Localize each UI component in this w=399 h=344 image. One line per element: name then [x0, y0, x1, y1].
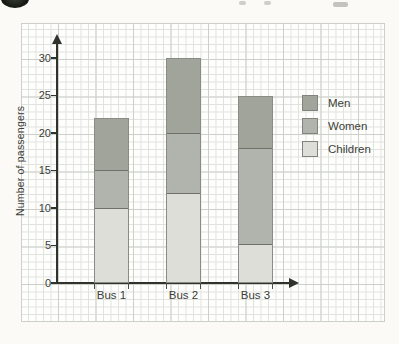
- legend-swatch-women: [302, 118, 318, 134]
- plot-area: Number of passengers 051015202530 Bus 1B…: [0, 0, 399, 344]
- y-tick-label: 10: [20, 203, 51, 214]
- y-tick-mark: [51, 95, 58, 97]
- y-tick-label: 0: [20, 278, 51, 289]
- bar-segment-women: [239, 148, 272, 244]
- y-tick-label: 5: [20, 240, 51, 251]
- legend-row-children: Children: [302, 141, 371, 157]
- stacked-bar-bus-2: [166, 58, 201, 283]
- y-tick-mark: [51, 207, 58, 209]
- legend-row-men: Men: [302, 95, 371, 111]
- y-axis-arrow-icon: [52, 34, 62, 44]
- legend: MenWomenChildren: [302, 95, 371, 164]
- bar-segment-men: [95, 119, 128, 170]
- bar-segment-women: [95, 170, 128, 208]
- bar-segment-children: [95, 208, 128, 282]
- x-category-label: Bus 1: [84, 289, 140, 301]
- y-tick-mark: [51, 170, 58, 172]
- legend-label: Women: [328, 120, 367, 132]
- legend-swatch-children: [302, 141, 318, 157]
- y-tick-mark: [51, 245, 58, 247]
- stacked-bar-bus-3: [238, 96, 273, 284]
- y-tick-label: 15: [20, 165, 51, 176]
- y-tick-label: 30: [20, 53, 51, 64]
- bar-segment-women: [167, 133, 200, 193]
- legend-row-women: Women: [302, 118, 371, 134]
- bar-segment-men: [167, 59, 200, 133]
- y-tick-mark: [51, 132, 58, 134]
- y-axis-title: Number of passengers: [14, 106, 26, 216]
- x-category-label: Bus 2: [156, 289, 212, 301]
- y-tick-label: 20: [20, 128, 51, 139]
- legend-label: Men: [328, 97, 350, 109]
- y-tick-mark: [51, 57, 58, 59]
- x-category-label: Bus 3: [228, 289, 284, 301]
- bar-segment-children: [167, 193, 200, 282]
- screenshot-root: Number of passengers 051015202530 Bus 1B…: [0, 0, 399, 344]
- bar-segment-children: [239, 244, 272, 282]
- y-axis-line: [56, 44, 58, 284]
- legend-label: Children: [328, 143, 371, 155]
- y-tick-mark: [51, 282, 58, 284]
- y-tick-label: 25: [20, 90, 51, 101]
- x-axis-arrow-icon: [289, 278, 299, 288]
- bar-segment-men: [239, 97, 272, 148]
- legend-swatch-men: [302, 95, 318, 111]
- stacked-bar-bus-1: [94, 118, 129, 283]
